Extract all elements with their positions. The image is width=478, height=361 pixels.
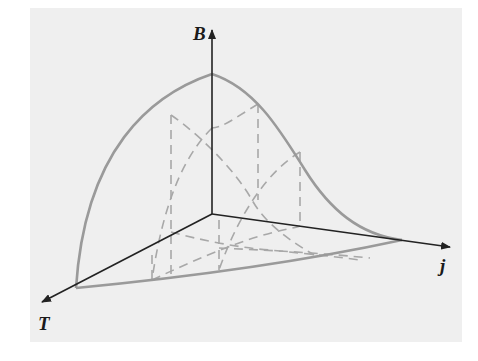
t-axis-label: T bbox=[38, 314, 50, 333]
b-j-boundary-curve bbox=[212, 74, 402, 240]
j-axis-label: j bbox=[440, 256, 445, 275]
b-t-boundary-curve bbox=[76, 74, 212, 288]
critical-surface-diagram bbox=[0, 0, 478, 361]
axes bbox=[42, 30, 450, 302]
t-j-boundary-curve bbox=[76, 240, 402, 288]
b-axis-label: B bbox=[193, 24, 206, 43]
t-axis bbox=[42, 214, 212, 302]
j-axis bbox=[212, 214, 450, 247]
